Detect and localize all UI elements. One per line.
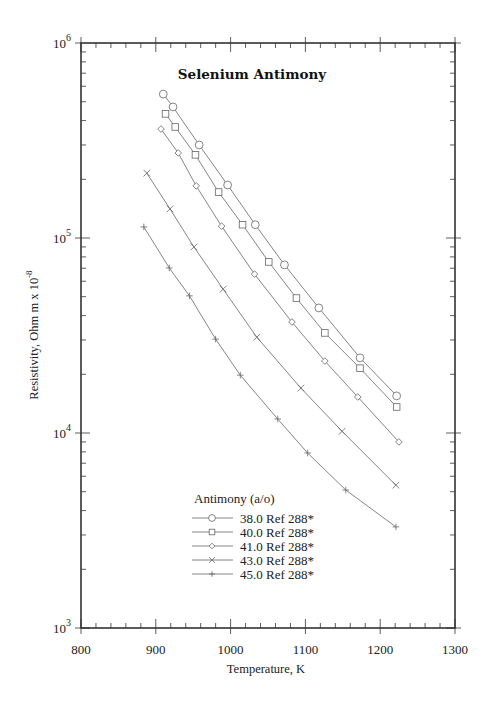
series-x [144,170,400,489]
data-series [141,90,403,530]
y-tick-label: 105 [53,227,71,246]
y-axis-title: Resistivity, Ohm m x 10-8 [24,270,41,400]
legend-item: 40.0 Ref 288* [192,525,314,540]
y-tick-label: 104 [53,422,71,441]
x-tick-label: 1300 [442,642,468,657]
y-tick-label: 103 [53,617,71,636]
y-tick-label: 106 [53,32,71,51]
x-axis-title: Temperature, K [227,662,305,676]
legend-item: 38.0 Ref 288* [192,511,314,526]
legend-label: 43.0 Ref 288* [240,553,314,568]
x-tick-label: 800 [71,642,91,657]
x-tick-label: 1000 [218,642,244,657]
y-axis-title-text: Resistivity, Ohm m x 10 [27,278,41,400]
legend-item: 43.0 Ref 288* [192,553,314,568]
series-diamond [158,126,402,445]
chart-title: Selenium Antimony [178,66,328,82]
x-tick-label: 1100 [293,642,319,657]
legend-label: 41.0 Ref 288* [240,539,314,554]
legend: Antimony (a/o) 38.0 Ref 288*40.0 Ref 288… [192,491,314,582]
x-tick-label: 900 [146,642,166,657]
legend-item: 41.0 Ref 288* [192,539,314,554]
x-tick-labels: 8009001000110012001300 [71,642,468,657]
y-axis-title-exponent: -8 [24,270,34,278]
legend-label: 40.0 Ref 288* [240,525,314,540]
legend-item: 45.0 Ref 288* [192,567,314,582]
legend-label: 45.0 Ref 288* [240,567,314,582]
series-plus [141,224,400,531]
resistivity-chart: 8009001000110012001300 103104105106 Sele… [0,0,488,701]
legend-label: 38.0 Ref 288* [240,511,314,526]
y-tick-labels: 103104105106 [53,32,71,636]
legend-title: Antimony (a/o) [194,491,275,506]
x-tick-label: 1200 [367,642,393,657]
